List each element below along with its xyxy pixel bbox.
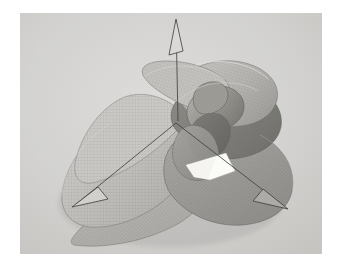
grain-overlay: [20, 13, 322, 254]
figure-root: Riemann surface of the complex logarithm…: [0, 0, 342, 268]
surface-plot-svg: [20, 13, 322, 254]
plot-area: [20, 13, 322, 254]
